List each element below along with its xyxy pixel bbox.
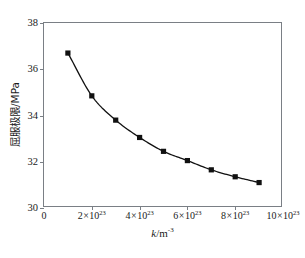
data-line (68, 53, 259, 183)
y-axis-tick-mark (40, 23, 44, 24)
x-axis-tick-label: 4×1023 (126, 211, 154, 221)
multiplication-sign-icon: × (226, 210, 233, 221)
x-tick-exponent: 23 (243, 209, 250, 216)
data-point-marker (137, 135, 142, 140)
x-axis-tick-label: 10×1023 (266, 211, 299, 221)
x-axis-title-unit: /m (156, 227, 168, 239)
y-axis-tick-label: 38 (28, 18, 39, 29)
x-tick-base: 10 (137, 210, 147, 221)
x-tick-base: 10 (185, 210, 195, 221)
data-markers (65, 50, 261, 185)
x-axis-tick-label: 0 (42, 211, 47, 221)
data-point-marker (233, 174, 238, 179)
multiplication-sign-icon: × (83, 210, 90, 221)
data-point-marker (185, 158, 190, 163)
multiplication-sign-icon: × (178, 210, 185, 221)
data-point-marker (257, 180, 262, 185)
y-axis-tick-mark (40, 116, 44, 117)
data-point-marker (161, 149, 166, 154)
y-axis-tick-label: 30 (28, 203, 39, 214)
x-tick-base: 10 (233, 210, 243, 221)
y-axis-tick-label: 32 (28, 157, 39, 168)
y-axis-tick-mark (40, 162, 44, 163)
data-curve-svg (44, 23, 283, 208)
multiplication-sign-icon: × (131, 210, 138, 221)
x-tick-base: 10 (89, 210, 99, 221)
y-axis-title: 屈服极限/MPa (8, 22, 22, 207)
x-axis-tick-label: 6×1023 (173, 211, 201, 221)
x-axis-tick-label: 8×1023 (221, 211, 249, 221)
x-tick-exponent: 23 (195, 209, 202, 216)
y-axis-tick-label: 36 (28, 64, 39, 75)
x-axis-title: k/m-3 (43, 228, 282, 239)
data-point-marker (65, 50, 70, 55)
y-axis-tick-mark (40, 208, 44, 209)
y-axis-tick-mark (40, 69, 44, 70)
x-axis-tick-label: 2×1023 (78, 211, 106, 221)
multiplication-sign-icon: × (276, 210, 283, 221)
plot-area: 3836343230 02×10234×10236×10238×102310×1… (43, 22, 282, 207)
x-tick-coefficient: 10 (266, 210, 276, 221)
data-point-marker (89, 93, 94, 98)
figure-container: 3836343230 02×10234×10236×10238×102310×1… (0, 0, 305, 258)
y-axis-tick-label: 34 (28, 110, 39, 121)
x-tick-base: 10 (283, 210, 293, 221)
x-axis-title-exponent: -3 (168, 226, 174, 234)
x-tick-exponent: 23 (147, 209, 154, 216)
x-tick-exponent: 23 (99, 209, 106, 216)
data-point-marker (113, 118, 118, 123)
x-tick-exponent: 23 (293, 209, 300, 216)
data-point-marker (209, 167, 214, 172)
